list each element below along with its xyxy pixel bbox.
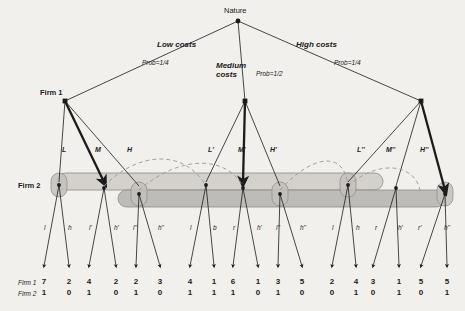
firm1-action-H2: H''	[420, 146, 428, 153]
payoff-firm1-8: 1	[207, 277, 221, 286]
payoff-firm1-3: 4	[82, 277, 96, 286]
firm2-action-0-2: l'	[89, 224, 92, 231]
payoff-firm2-16: 1	[392, 288, 406, 297]
firm2-action-0-3: h'	[114, 224, 119, 231]
firm2-action-2-4: r'	[418, 224, 421, 231]
payoff-firm2-14: 1	[349, 288, 363, 297]
payoff-row-label-firm1: Firm 1	[18, 279, 36, 286]
nature-label: Nature	[224, 6, 247, 15]
firm2-label: Firm 2	[18, 181, 41, 190]
firm1-action-M: M	[95, 146, 101, 153]
payoff-firm2-8: 1	[207, 288, 221, 297]
firm2-action-1-3: h'	[257, 224, 262, 231]
prob-label-low: Prob=1/4	[142, 59, 169, 66]
payoff-firm1-9: 6	[226, 277, 240, 286]
payoff-firm2-4: 0	[109, 288, 123, 297]
payoff-firm2-18: 1	[440, 288, 454, 297]
payoff-firm1-15: 3	[366, 277, 380, 286]
firm2-action-0-5: h''	[158, 224, 164, 231]
payoff-firm2-3: 1	[82, 288, 96, 297]
payoff-firm2-17: 0	[414, 288, 428, 297]
firm2-action-0-4: l''	[133, 224, 137, 231]
firm1-action-H: H	[127, 146, 132, 153]
payoff-firm2-5: 1	[129, 288, 143, 297]
payoff-row-label-firm2: Firm 2	[18, 290, 36, 297]
payoff-firm2-1: 1	[37, 288, 51, 297]
prob-label-medium: Prob=1/2	[256, 70, 283, 77]
payoff-firm1-10: 1	[251, 277, 265, 286]
cost-label-low: Low costs	[157, 40, 196, 49]
firm2-action-1-2: r	[233, 224, 235, 231]
prob-label-high: Prob=1/4	[334, 59, 361, 66]
payoff-firm1-17: 5	[414, 277, 428, 286]
payoff-firm2-13: 0	[325, 288, 339, 297]
payoff-firm1-1: 7	[37, 277, 51, 286]
firm2-action-0-1: h	[68, 224, 72, 231]
cost-label-high: High costs	[296, 40, 337, 49]
firm1-action-L: L	[62, 146, 66, 153]
firm1-nodes	[63, 99, 424, 104]
payoff-firm2-6: 0	[153, 288, 167, 297]
firm2-action-1-4: l''	[276, 224, 280, 231]
firm2-action-0-0: l	[44, 224, 45, 231]
firm1-action-L1: L'	[208, 146, 214, 153]
payoff-firm2-15: 0	[366, 288, 380, 297]
payoff-firm1-2: 2	[62, 277, 76, 286]
firm1-action-H1: H'	[270, 146, 277, 153]
firm1-label: Firm 1	[40, 88, 63, 97]
payoff-firm2-9: 1	[226, 288, 240, 297]
payoff-firm1-16: 1	[392, 277, 406, 286]
payoff-firm1-7: 4	[183, 277, 197, 286]
payoff-firm2-2: 0	[62, 288, 76, 297]
payoff-firm1-14: 4	[349, 277, 363, 286]
payoff-firm1-18: 5	[440, 277, 454, 286]
firm2-action-2-2: r	[375, 224, 377, 231]
firm2-action-2-5: h''	[444, 224, 450, 231]
firm2-action-1-5: h''	[300, 224, 306, 231]
firm1-action-M2: M''	[386, 146, 395, 153]
firm2-action-2-3: h'	[398, 224, 403, 231]
payoff-firm1-11: 3	[271, 277, 285, 286]
firm2-action-1-1: b	[213, 224, 217, 231]
firm1-action-M1: M'	[238, 146, 246, 153]
payoff-firm1-13: 2	[325, 277, 339, 286]
firm2-action-2-1: h	[356, 224, 360, 231]
firm2-action-1-0: l	[190, 224, 191, 231]
payoff-firm1-6: 3	[153, 277, 167, 286]
game-tree-diagram: Nature Low costs Prob=1/4 Medium costs P…	[0, 0, 465, 311]
payoff-firm2-10: 0	[251, 288, 265, 297]
node-nature	[236, 19, 241, 24]
payoff-firm2-11: 1	[271, 288, 285, 297]
payoff-firm1-12: 5	[295, 277, 309, 286]
infoset-upper	[57, 173, 383, 190]
payoff-firm1-4: 2	[109, 277, 123, 286]
payoff-firm2-7: 1	[183, 288, 197, 297]
payoff-firm1-5: 2	[129, 277, 143, 286]
payoff-firm2-12: 0	[295, 288, 309, 297]
firm1-action-L2: L''	[357, 146, 365, 153]
firm2-action-2-0: l	[332, 224, 333, 231]
cost-label-medium: Medium costs	[216, 61, 254, 79]
tree-canvas	[0, 0, 465, 311]
